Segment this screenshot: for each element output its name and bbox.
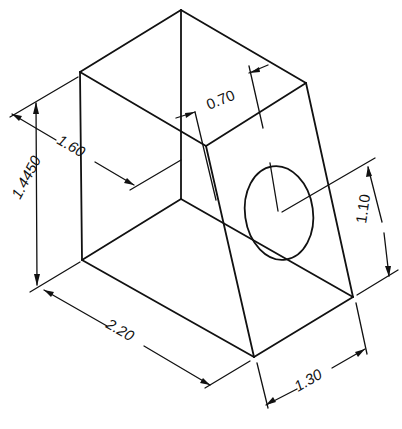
dimension-height: 1.4450 bbox=[8, 77, 80, 292]
arrowhead-icon bbox=[33, 102, 39, 114]
dimension-bottom-width: 1.30 bbox=[257, 303, 367, 408]
hole-centerline-vertical bbox=[270, 163, 278, 211]
dimension-length: 2.20 bbox=[44, 290, 250, 388]
arrowhead-icon bbox=[34, 274, 40, 286]
drawing-svg: 1.4450 1.60 0.70 1.10 2.20 bbox=[0, 0, 402, 429]
left-vertical-edge bbox=[80, 72, 82, 260]
sloped-left-edge bbox=[206, 146, 254, 357]
depth-ext-line bbox=[130, 160, 181, 190]
arrowhead-icon bbox=[355, 349, 365, 357]
isometric-drawing: 1.4450 1.60 0.70 1.10 2.20 bbox=[0, 0, 402, 429]
top-left-back-edge bbox=[80, 10, 181, 72]
inner-bottom-left-edge bbox=[82, 199, 181, 260]
arrowhead-icon bbox=[366, 166, 372, 177]
hole-height-label: 1.10 bbox=[352, 193, 373, 224]
top-right-back-edge bbox=[181, 10, 306, 83]
top-left-front-edge bbox=[80, 72, 206, 146]
dimension-hole-height: 1.10 bbox=[352, 166, 398, 295]
dimension-depth: 1.60 bbox=[12, 114, 181, 190]
arrowhead-icon bbox=[124, 178, 134, 185]
arrowhead-icon bbox=[185, 112, 195, 118]
offset-label: 0.70 bbox=[204, 86, 237, 113]
depth-label: 1.60 bbox=[55, 131, 89, 161]
inner-bottom-right-edge bbox=[181, 199, 353, 297]
arrowhead-icon bbox=[266, 397, 276, 405]
height-dim-line bbox=[36, 103, 37, 285]
width-ext-left bbox=[257, 363, 268, 408]
height-ext-top bbox=[10, 77, 78, 117]
width-label: 1.30 bbox=[291, 365, 325, 395]
hole-ext-bottom bbox=[357, 270, 398, 295]
length-dim-line-b bbox=[144, 346, 210, 385]
arrowhead-icon bbox=[250, 67, 260, 73]
length-dim-line-a bbox=[44, 290, 107, 326]
height-label: 1.4450 bbox=[8, 152, 45, 201]
hole-circle bbox=[239, 162, 319, 265]
bottom-front-right-edge bbox=[254, 297, 353, 357]
arrowhead-icon bbox=[44, 290, 54, 297]
offset-ext-right bbox=[249, 66, 263, 128]
arrowhead-icon bbox=[200, 378, 210, 385]
arrowhead-icon bbox=[12, 114, 22, 121]
sloped-right-edge bbox=[306, 83, 353, 297]
length-ext-right bbox=[205, 361, 250, 388]
bottom-front-left-edge bbox=[82, 260, 254, 357]
dimension-top-offset: 0.70 bbox=[176, 65, 268, 200]
block-edges bbox=[80, 10, 353, 357]
offset-ext-left bbox=[195, 112, 216, 200]
width-ext-right bbox=[356, 303, 367, 354]
length-label: 2.20 bbox=[103, 314, 138, 344]
